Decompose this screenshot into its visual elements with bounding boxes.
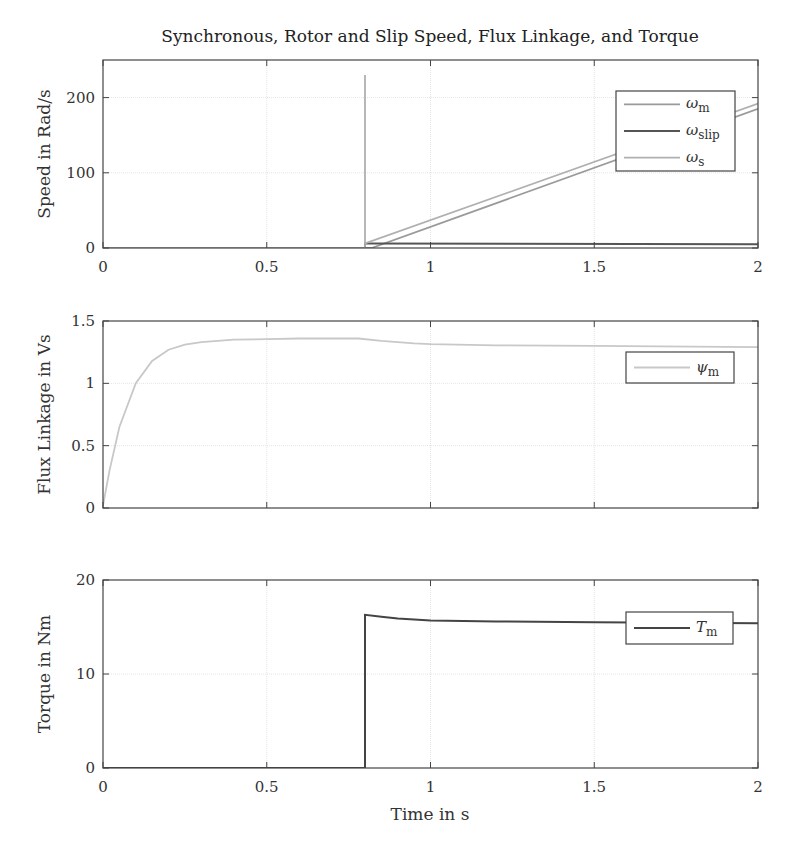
y-tick-label: 20 bbox=[76, 571, 95, 589]
legend: Tm bbox=[626, 612, 733, 644]
y-tick-label: 0.5 bbox=[71, 437, 95, 455]
x-tick-label: 0 bbox=[98, 258, 108, 276]
x-tick-label: 1 bbox=[426, 258, 436, 276]
x-tick-label: 2 bbox=[753, 778, 763, 796]
torque-panel: 00.511.5201020Torque in NmTm bbox=[34, 571, 763, 796]
x-tick-label: 0 bbox=[98, 778, 108, 796]
flux-panel: 00.511.5Flux Linkage in Vsψm bbox=[34, 312, 758, 517]
x-axis-label: Time in s bbox=[391, 804, 470, 824]
figure: Synchronous, Rotor and Slip Speed, Flux … bbox=[0, 0, 788, 857]
y-axis-label: Flux Linkage in Vs bbox=[34, 334, 54, 494]
speed-panel: 00.511.520100200Speed in Rad/sωmωslipωs bbox=[34, 60, 763, 276]
y-tick-label: 0 bbox=[85, 239, 95, 257]
x-tick-label: 0.5 bbox=[255, 778, 279, 796]
x-tick-label: 1 bbox=[426, 778, 436, 796]
x-tick-label: 1.5 bbox=[582, 778, 606, 796]
y-tick-label: 10 bbox=[76, 665, 95, 683]
y-tick-label: 0 bbox=[85, 759, 95, 777]
y-tick-label: 1.5 bbox=[71, 312, 95, 330]
y-axis-label: Speed in Rad/s bbox=[34, 89, 54, 218]
y-tick-label: 1 bbox=[85, 374, 95, 392]
y-tick-label: 200 bbox=[66, 89, 95, 107]
x-tick-label: 2 bbox=[753, 258, 763, 276]
y-tick-label: 0 bbox=[85, 499, 95, 517]
figure-title: Synchronous, Rotor and Slip Speed, Flux … bbox=[161, 26, 699, 46]
x-tick-label: 0.5 bbox=[255, 258, 279, 276]
y-tick-label: 100 bbox=[66, 164, 95, 182]
y-axis-label: Torque in Nm bbox=[34, 615, 54, 733]
legend: ωmωslipωs bbox=[616, 91, 735, 171]
legend: ψm bbox=[626, 352, 734, 383]
x-tick-label: 1.5 bbox=[582, 258, 606, 276]
